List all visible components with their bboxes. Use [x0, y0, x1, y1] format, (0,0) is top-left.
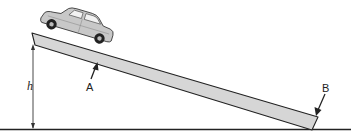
point-a-label: A	[86, 81, 94, 93]
height-label: h	[27, 79, 33, 93]
inclined-ramp	[32, 33, 318, 130]
arrow-b	[315, 94, 326, 116]
point-b-label: B	[322, 82, 329, 94]
incline-diagram: h A B	[0, 0, 351, 138]
arrow-a	[91, 62, 99, 79]
